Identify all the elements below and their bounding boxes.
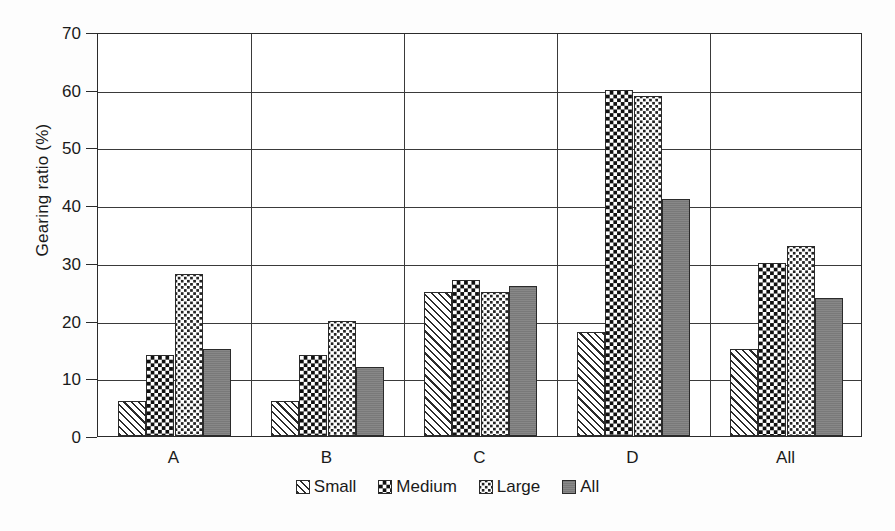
y-tick-mark — [86, 148, 97, 149]
bar-chart: Gearing ratio (%) 010203040506070 ABCDAl… — [0, 0, 895, 531]
y-tick-mark — [86, 437, 97, 438]
legend-label: Small — [314, 478, 357, 495]
x-tick-label-d: D — [626, 448, 638, 468]
gridline-horizontal — [98, 265, 861, 266]
legend-swatch-large-icon — [479, 480, 493, 494]
legend-item-all[interactable]: All — [562, 478, 599, 495]
y-tick-label: 60 — [35, 82, 81, 99]
bar-a-large — [175, 274, 203, 436]
y-tick-mark — [86, 264, 97, 265]
y-tick-mark — [86, 206, 97, 207]
y-tick-label: 40 — [35, 198, 81, 215]
bar-c-all — [509, 286, 537, 436]
y-tick-label: 20 — [35, 313, 81, 330]
y-tick-mark — [86, 322, 97, 323]
bar-all-small — [730, 349, 758, 436]
y-tick-label: 50 — [35, 140, 81, 157]
legend-swatch-all-icon — [562, 480, 576, 494]
gridline-horizontal — [98, 207, 861, 208]
bar-b-small — [271, 401, 299, 436]
legend-swatch-small-icon — [296, 480, 310, 494]
y-tick-label: 30 — [35, 255, 81, 272]
bar-d-all — [662, 199, 690, 436]
bar-c-large — [481, 292, 509, 436]
bar-all-medium — [758, 263, 786, 436]
bar-a-medium — [146, 355, 174, 436]
x-tick-label-a: A — [168, 448, 179, 468]
y-tick-label: 10 — [35, 371, 81, 388]
bar-b-large — [328, 321, 356, 436]
x-tick-label-b: B — [321, 448, 332, 468]
y-tick-mark — [86, 91, 97, 92]
y-tick-mark — [86, 33, 97, 34]
group-separator — [557, 34, 558, 436]
group-separator — [404, 34, 405, 436]
legend-label: Large — [497, 478, 540, 495]
y-tick-label: 0 — [35, 429, 81, 446]
bar-d-large — [634, 96, 662, 437]
legend-label: All — [580, 478, 599, 495]
legend-item-medium[interactable]: Medium — [378, 478, 456, 495]
legend-label: Medium — [396, 478, 456, 495]
bar-d-medium — [605, 90, 633, 436]
gridline-horizontal — [98, 149, 861, 150]
legend-item-small[interactable]: Small — [296, 478, 357, 495]
bar-c-medium — [452, 280, 480, 436]
bar-all-large — [787, 246, 815, 436]
plot-area — [97, 33, 862, 437]
group-separator — [710, 34, 711, 436]
legend-item-large[interactable]: Large — [479, 478, 540, 495]
bar-b-medium — [299, 355, 327, 436]
y-tick-label: 70 — [35, 25, 81, 42]
x-tick-label-all: All — [776, 448, 795, 468]
y-axis-ticks: 010203040506070 — [0, 0, 97, 531]
y-tick-mark — [86, 379, 97, 380]
legend-swatch-medium-icon — [378, 480, 392, 494]
bar-a-small — [118, 401, 146, 436]
x-tick-label-c: C — [473, 448, 485, 468]
bar-c-small — [424, 292, 452, 436]
bar-all-all — [815, 298, 843, 437]
bar-d-small — [577, 332, 605, 436]
group-separator — [251, 34, 252, 436]
gridline-horizontal — [98, 92, 861, 93]
bar-a-all — [203, 349, 231, 436]
bar-b-all — [356, 367, 384, 436]
legend: SmallMediumLargeAll — [0, 478, 895, 495]
